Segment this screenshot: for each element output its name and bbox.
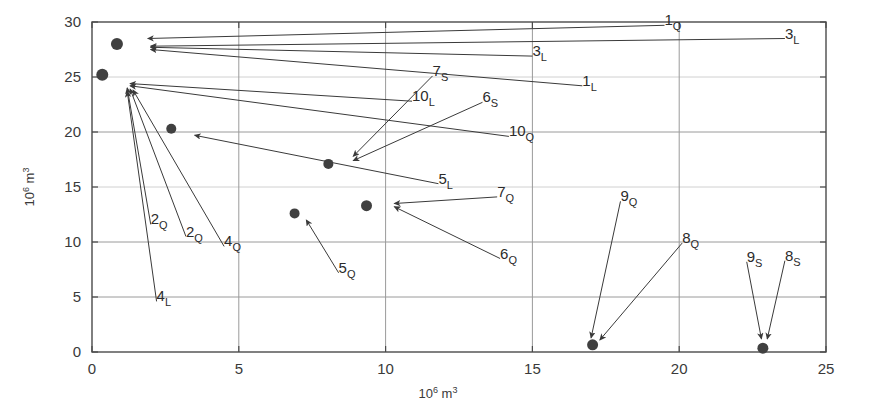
data-marker-marker-10q-5l: [166, 124, 176, 134]
data-marker-cluster-mid-left: [96, 69, 108, 81]
x-axis-title: 106 m3: [419, 385, 458, 401]
y-axis-title: 106 m3: [21, 168, 37, 207]
y-tick-label: 10: [64, 233, 81, 250]
y-tick-label: 15: [64, 178, 81, 195]
plot-canvas: 0510152025051015202530 1Q3L3L1L10L10Q5L2…: [0, 0, 876, 417]
svg-text:106 m3: 106 m3: [419, 385, 458, 401]
x-tick-label: 25: [818, 360, 835, 377]
data-marker-cluster-top-left: [111, 38, 123, 50]
data-marker-marker-7q-6q: [361, 200, 372, 211]
y-tick-label: 0: [73, 343, 81, 360]
data-marker-marker-9s-8s: [757, 343, 768, 354]
x-tick-label: 5: [235, 360, 243, 377]
y-tick-label: 5: [73, 288, 81, 305]
y-tick-label: 20: [64, 123, 81, 140]
data-marker-marker-7s-6s: [323, 159, 333, 169]
y-tick-label: 25: [64, 68, 81, 85]
data-marker-marker-9q-8q: [587, 339, 598, 350]
scatter-plot-figure: 0510152025051015202530 1Q3L3L1L10L10Q5L2…: [0, 0, 876, 417]
x-tick-label: 10: [377, 360, 394, 377]
y-tick-label: 30: [64, 13, 81, 30]
x-tick-label: 0: [88, 360, 96, 377]
x-tick-label: 20: [671, 360, 688, 377]
x-tick-label: 15: [524, 360, 541, 377]
data-marker-marker-5q: [290, 208, 300, 218]
svg-text:106 m3: 106 m3: [21, 168, 37, 207]
